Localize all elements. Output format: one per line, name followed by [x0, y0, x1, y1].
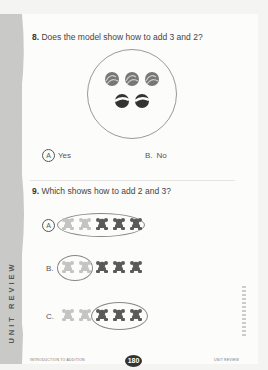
light-bear-icon — [61, 309, 75, 321]
q8-option-b-label: No — [157, 151, 167, 160]
q8-option-a[interactable]: A Yes — [42, 149, 71, 162]
q9-option-a[interactable]: A — [42, 219, 58, 232]
dark-bear-icon — [112, 309, 126, 321]
question-9-number: 9. — [32, 186, 39, 196]
dark-bear-icon — [112, 218, 126, 230]
dark-bear-icon — [112, 261, 126, 273]
light-bear-icon — [61, 261, 75, 273]
page-number: 180 — [125, 355, 142, 367]
striped-counter-icon — [105, 72, 159, 86]
q9-option-c-bears — [61, 309, 143, 321]
section-divider — [30, 180, 235, 181]
q8-option-b[interactable]: B. No — [145, 151, 167, 160]
unit-review-tab: UNIT REVIEW — [3, 252, 19, 352]
dark-bear-icon — [129, 261, 143, 273]
q8-option-a-label: Yes — [58, 151, 71, 160]
q9-option-a-bears — [61, 218, 143, 230]
question-8-text: Does the model show how to add 3 and 2? — [41, 32, 202, 42]
q8-option-a-letter: A — [42, 149, 55, 162]
light-bear-icon — [78, 261, 92, 273]
light-bear-icon — [61, 218, 75, 230]
model-counters — [100, 69, 164, 119]
q8-option-b-letter: B. — [145, 151, 153, 160]
q9-option-b-bears — [61, 261, 143, 273]
dark-bear-icon — [95, 261, 109, 273]
question-8-number: 8. — [32, 32, 39, 42]
question-9-text: Which shows how to add 2 and 3? — [41, 186, 170, 196]
half-counter-icon — [115, 94, 149, 108]
q9-option-b[interactable]: B. — [46, 264, 54, 273]
copyright-notice — [242, 286, 246, 336]
footer-section: UNIT REVIEW — [214, 358, 239, 362]
dark-bear-icon — [129, 218, 143, 230]
q9-option-b-letter: B. — [46, 264, 54, 273]
question-8: 8. Does the model show how to add 3 and … — [32, 32, 203, 42]
light-bear-icon — [78, 309, 92, 321]
light-bear-icon — [78, 218, 92, 230]
dark-bear-icon — [129, 309, 143, 321]
dark-bear-icon — [95, 309, 109, 321]
q9-option-c-letter: C. — [46, 312, 54, 321]
footer-chapter: INTRODUCTION TO ADDITION — [30, 358, 85, 362]
worksheet-page: UNIT REVIEW 8. Does the model show how t… — [0, 14, 258, 364]
q9-option-c[interactable]: C. — [46, 312, 54, 321]
q9-option-a-letter: A — [42, 219, 55, 232]
dark-bear-icon — [95, 218, 109, 230]
question-9: 9. Which shows how to add 2 and 3? — [32, 186, 171, 196]
